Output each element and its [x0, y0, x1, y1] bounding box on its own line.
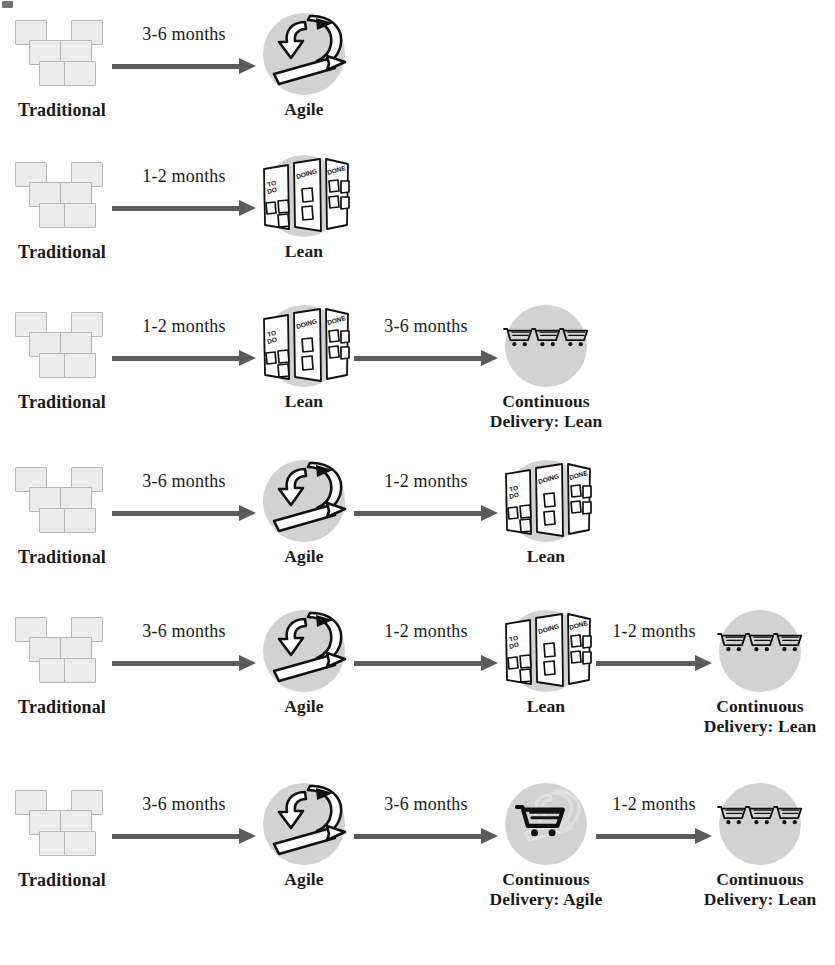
- node-icon: [471, 778, 621, 870]
- stacked-squares-icon: [12, 615, 112, 687]
- node-icon: TO DO DOING DONE: [471, 455, 621, 547]
- node-icon: [0, 455, 137, 547]
- node-icon: TO DO DOING DONE: [229, 150, 379, 242]
- node-traditional[interactable]: Traditional: [0, 455, 137, 567]
- node-label: Agile: [229, 870, 379, 890]
- agile-loop-arrow-icon: [261, 14, 347, 94]
- node-lean[interactable]: TO DO DOING DONE Lean: [471, 455, 621, 567]
- scan-artifact-mark: [2, 1, 13, 8]
- node-icon: [229, 8, 379, 100]
- pathway-row: 3-6 months 1-2 months Traditional Agile: [0, 455, 835, 605]
- node-label: Traditional: [0, 100, 137, 120]
- node-lean[interactable]: TO DO DOING DONE Lean: [471, 605, 621, 717]
- diagram-canvas: 3-6 months Traditional Agile1-2 months T…: [0, 0, 835, 965]
- node-label: Lean: [471, 697, 621, 717]
- three-shopping-carts-icon: [716, 797, 804, 851]
- node-traditional[interactable]: Traditional: [0, 8, 137, 120]
- node-icon: TO DO DOING DONE: [471, 605, 621, 697]
- node-label: Agile: [229, 697, 379, 717]
- node-label: Traditional: [0, 242, 137, 262]
- node-icon: TO DO DOING DONE: [229, 300, 379, 392]
- node-label: Traditional: [0, 870, 137, 890]
- node-cd-agile[interactable]: Continuous Delivery: Agile: [471, 778, 621, 909]
- pathway-row: 1-2 months Traditional TO DO DOING DONE: [0, 150, 835, 300]
- node-label: Continuous Delivery: Agile: [471, 870, 621, 909]
- node-lean[interactable]: TO DO DOING DONE Lean: [229, 150, 379, 262]
- three-shopping-carts-icon: [502, 319, 590, 373]
- node-label: Lean: [229, 242, 379, 262]
- node-label: Continuous Delivery: Lean: [685, 697, 835, 736]
- node-agile[interactable]: Agile: [229, 778, 379, 890]
- single-shopping-cart-icon: [503, 785, 589, 863]
- node-icon: [471, 300, 621, 392]
- three-shopping-carts-icon: [716, 624, 804, 678]
- node-label: Traditional: [0, 392, 137, 412]
- stacked-squares-icon: [12, 18, 112, 90]
- node-agile[interactable]: Agile: [229, 455, 379, 567]
- node-traditional[interactable]: Traditional: [0, 150, 137, 262]
- stacked-squares-icon: [12, 160, 112, 232]
- node-traditional[interactable]: Traditional: [0, 300, 137, 412]
- node-icon: [685, 778, 835, 870]
- node-agile[interactable]: Agile: [229, 605, 379, 717]
- stacked-squares-icon: [12, 465, 112, 537]
- node-traditional[interactable]: Traditional: [0, 778, 137, 890]
- node-icon: [0, 778, 137, 870]
- node-cd-lean[interactable]: Continuous Delivery: Lean: [685, 605, 835, 736]
- pathway-row: 1-2 months 3-6 months Traditional TO DO …: [0, 300, 835, 450]
- node-agile[interactable]: Agile: [229, 8, 379, 120]
- agile-loop-arrow-icon: [261, 784, 347, 864]
- stacked-squares-icon: [12, 788, 112, 860]
- pathway-row: 3-6 months 1-2 months 1-2 months Traditi…: [0, 605, 835, 755]
- node-icon: [0, 8, 137, 100]
- kanban-board-icon: TO DO DOING DONE: [500, 458, 592, 544]
- node-icon: [0, 605, 137, 697]
- node-cd-lean[interactable]: Continuous Delivery: Lean: [471, 300, 621, 431]
- node-label: Lean: [471, 547, 621, 567]
- kanban-board-icon: TO DO DOING DONE: [500, 608, 592, 694]
- node-lean[interactable]: TO DO DOING DONE Lean: [229, 300, 379, 412]
- agile-loop-arrow-icon: [261, 461, 347, 541]
- node-label: Agile: [229, 547, 379, 567]
- kanban-board-icon: TO DO DOING DONE: [258, 303, 350, 389]
- node-label: Traditional: [0, 697, 137, 717]
- stacked-squares-icon: [12, 310, 112, 382]
- node-icon: [0, 150, 137, 242]
- node-cd-lean[interactable]: Continuous Delivery: Lean: [685, 778, 835, 909]
- pathway-row: 3-6 months 3-6 months 1-2 months Traditi…: [0, 778, 835, 928]
- node-icon: [229, 778, 379, 870]
- node-label: Continuous Delivery: Lean: [685, 870, 835, 909]
- kanban-board-icon: TO DO DOING DONE: [258, 153, 350, 239]
- pathway-row: 3-6 months Traditional Agile: [0, 8, 835, 158]
- node-label: Traditional: [0, 547, 137, 567]
- node-label: Continuous Delivery: Lean: [471, 392, 621, 431]
- node-icon: [229, 455, 379, 547]
- node-traditional[interactable]: Traditional: [0, 605, 137, 717]
- agile-loop-arrow-icon: [261, 611, 347, 691]
- node-icon: [229, 605, 379, 697]
- node-label: Agile: [229, 100, 379, 120]
- node-icon: [0, 300, 137, 392]
- node-icon: [685, 605, 835, 697]
- node-label: Lean: [229, 392, 379, 412]
